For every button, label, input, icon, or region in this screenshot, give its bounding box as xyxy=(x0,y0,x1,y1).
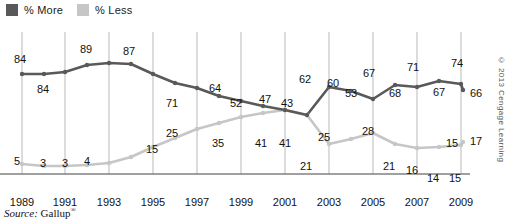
value-label-less: 41 xyxy=(255,138,267,149)
legend-label-less: % Less xyxy=(95,4,132,16)
data-point xyxy=(129,62,133,66)
x-axis-tick-label: 1999 xyxy=(229,196,253,208)
source-note: Source: Gallup® xyxy=(4,206,76,219)
value-label-more: 43 xyxy=(281,98,293,109)
legend-item-less: % Less xyxy=(77,4,132,16)
value-label-more: 74 xyxy=(451,58,463,69)
value-label-more: 62 xyxy=(299,74,311,85)
data-point xyxy=(261,111,265,115)
data-point xyxy=(461,88,465,92)
value-label-less: 25 xyxy=(166,128,178,139)
x-axis-tick-label: 2009 xyxy=(449,196,473,208)
data-point xyxy=(151,72,155,76)
data-point xyxy=(437,145,441,149)
copyright-notice: © 2013 Cengage Learning xyxy=(497,56,505,162)
value-label-more: 84 xyxy=(37,84,49,95)
legend-label-more: % More xyxy=(24,4,63,16)
value-label-more: 47 xyxy=(259,94,271,105)
value-label-less: 25 xyxy=(318,132,330,143)
data-point xyxy=(195,127,199,131)
x-axis-tick-label: 1997 xyxy=(185,196,209,208)
data-point xyxy=(349,137,353,141)
value-label-less: 15 xyxy=(146,144,158,155)
value-label-more: 68 xyxy=(389,88,401,99)
x-axis-tick-label: 2005 xyxy=(361,196,385,208)
registered-mark-icon: ® xyxy=(71,206,76,214)
legend-swatch-less-icon xyxy=(77,4,89,16)
value-label-more: 84 xyxy=(14,54,26,65)
chart-legend: % More % Less xyxy=(6,4,132,16)
data-point xyxy=(20,162,24,166)
chart-figure: % More % Less 84848987716452474362605367… xyxy=(0,0,505,223)
value-label-less: 21 xyxy=(383,161,395,172)
value-label-more: 60 xyxy=(327,78,339,89)
value-label-more: 67 xyxy=(363,68,375,79)
data-point xyxy=(42,72,46,76)
data-point xyxy=(217,121,221,125)
value-label-less: 3 xyxy=(62,158,68,169)
source-name: Gallup xyxy=(41,207,71,219)
value-label-less: 5 xyxy=(14,156,20,167)
value-label-less: 17 xyxy=(470,136,482,147)
value-label-more: 67 xyxy=(433,87,445,98)
value-label-more: 71 xyxy=(407,62,419,73)
value-label-less: 41 xyxy=(279,138,291,149)
data-point xyxy=(217,94,221,98)
data-point xyxy=(415,146,419,150)
data-point xyxy=(415,85,419,89)
value-label-more: 71 xyxy=(166,98,178,109)
value-label-less: 28 xyxy=(362,126,374,137)
value-label-less: 3 xyxy=(40,158,46,169)
data-point xyxy=(63,70,67,74)
legend-swatch-more-icon xyxy=(6,4,18,16)
data-point xyxy=(305,113,309,117)
x-axis-tick-label: 2003 xyxy=(317,196,341,208)
data-point xyxy=(173,81,177,85)
data-point xyxy=(129,155,133,159)
data-point xyxy=(107,61,111,65)
data-point xyxy=(239,115,243,119)
data-point xyxy=(195,86,199,90)
legend-item-more: % More xyxy=(6,4,63,16)
value-label-more: 53 xyxy=(345,88,357,99)
x-axis-tick-label: 1993 xyxy=(97,196,121,208)
value-label-less: 4 xyxy=(84,156,90,167)
value-label-less: 15 xyxy=(449,173,461,184)
data-point xyxy=(393,142,397,146)
data-point xyxy=(437,79,441,83)
value-label-less: 16 xyxy=(406,165,418,176)
data-point xyxy=(20,72,24,76)
data-point xyxy=(85,63,89,67)
plot-area: 8484898771645247436260536768716774665334… xyxy=(0,26,470,176)
value-label-more: 64 xyxy=(209,83,221,94)
value-label-more: 66 xyxy=(470,88,482,99)
x-axis-tick-label: 2007 xyxy=(405,196,429,208)
x-axis-tick-label: 2001 xyxy=(273,196,297,208)
value-label-less: 15 xyxy=(446,138,458,149)
data-point xyxy=(107,161,111,165)
value-label-less: 14 xyxy=(427,173,439,184)
data-point xyxy=(371,97,375,101)
source-prefix: Source: xyxy=(4,207,38,219)
value-label-more: 87 xyxy=(123,46,135,57)
data-point xyxy=(459,82,463,86)
value-label-more: 52 xyxy=(230,98,242,109)
data-point xyxy=(461,140,465,144)
value-label-less: 21 xyxy=(300,161,312,172)
value-label-more: 89 xyxy=(80,44,92,55)
value-label-less: 35 xyxy=(212,138,224,149)
x-axis-tick-label: 1995 xyxy=(141,196,165,208)
